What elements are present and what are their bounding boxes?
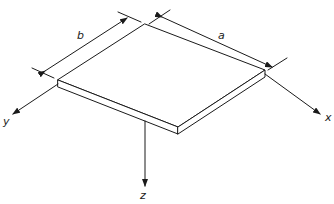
x-axis-line	[265, 74, 320, 114]
y-axis-line	[13, 84, 58, 114]
plate-top-face	[58, 24, 265, 127]
a-extension-line-left	[149, 10, 170, 24]
y-axis-label: y	[3, 116, 10, 127]
a-dimension-label: a	[218, 30, 225, 41]
b-dimension-label: b	[77, 30, 84, 41]
plate-diagram	[0, 0, 334, 204]
a-extension-line-right	[268, 58, 287, 70]
b-extension-line-right	[118, 12, 141, 22]
z-axis-label: z	[140, 190, 146, 201]
x-axis-label: x	[325, 112, 332, 123]
b-extension-line-left	[32, 68, 54, 78]
